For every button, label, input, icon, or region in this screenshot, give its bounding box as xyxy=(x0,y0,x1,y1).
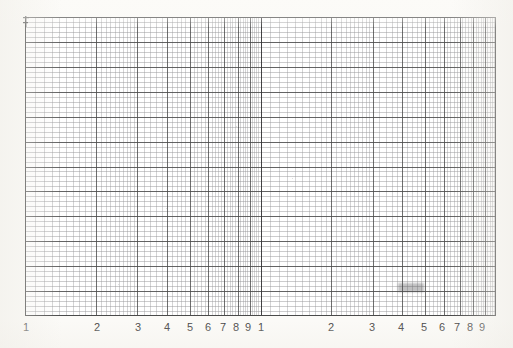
x-axis-tick-label: 7 xyxy=(454,321,460,333)
x-axis-tick-label: 6 xyxy=(205,321,211,333)
x-axis-tick-label: 3 xyxy=(135,321,141,333)
graph-paper-sheet: 123456789123456789 xyxy=(0,0,513,348)
x-axis-tick-label: 8 xyxy=(467,321,473,333)
x-axis-tick-label: 1 xyxy=(23,321,29,333)
x-axis-tick-label: 8 xyxy=(233,321,239,333)
semilog-plot-area xyxy=(25,17,496,316)
x-axis-tick-label: 9 xyxy=(479,321,485,333)
x-axis-tick-label: 3 xyxy=(369,321,375,333)
x-axis-tick-label: 4 xyxy=(164,321,170,333)
x-axis-tick-label: 4 xyxy=(398,321,404,333)
x-axis-tick-label: 1 xyxy=(258,321,264,333)
x-axis-tick-label: 6 xyxy=(439,321,445,333)
x-axis-tick-label: 2 xyxy=(328,321,334,333)
x-axis-tick-label: 5 xyxy=(187,321,193,333)
x-axis-tick-label: 7 xyxy=(220,321,226,333)
x-axis-tick-label: 9 xyxy=(245,321,251,333)
x-axis-tick-label: 2 xyxy=(94,321,100,333)
x-axis-tick-label: 5 xyxy=(421,321,427,333)
grid-lines xyxy=(25,17,496,316)
